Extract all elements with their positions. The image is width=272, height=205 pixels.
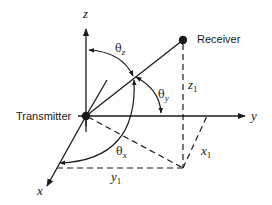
receiver-dot	[179, 36, 187, 44]
transmitter-label: Transmitter	[16, 110, 72, 122]
theta-z-arc	[89, 50, 133, 76]
reference-stub-line	[86, 80, 107, 116]
y1-label: y1	[109, 169, 121, 186]
y-axis-label: y	[249, 108, 257, 123]
receiver-label: Receiver	[197, 33, 241, 45]
projection-lines	[54, 44, 207, 168]
theta-x-label: θx	[116, 145, 127, 160]
angle-arcs	[60, 50, 161, 163]
transmitter-dot	[82, 112, 90, 120]
axes	[47, 29, 245, 186]
z-axis-label: z	[82, 6, 88, 21]
x-axis	[47, 116, 86, 186]
theta-y-label: θy	[158, 88, 169, 103]
x1-dashed-line	[183, 116, 207, 168]
x-axis-label: x	[36, 183, 43, 198]
x1-label: x1	[200, 143, 211, 160]
theta-z-label: θz	[115, 42, 126, 57]
z1-label: z1	[187, 77, 198, 94]
ground-diagonal-dashed-line	[88, 117, 183, 168]
coordinate-diagram: Transmitter Receiver z y x θz θy θx z1 x…	[0, 0, 272, 205]
